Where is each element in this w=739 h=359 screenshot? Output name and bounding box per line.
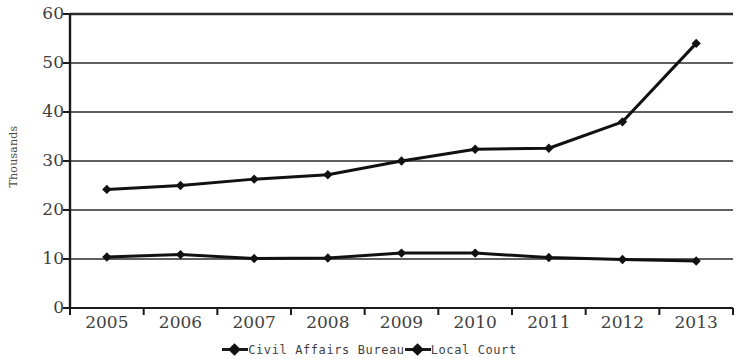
diamond-marker-icon — [222, 343, 248, 355]
data-series — [102, 39, 701, 194]
data-point-marker — [397, 156, 406, 165]
legend-item-local-court: Local Court — [405, 341, 517, 357]
data-point-marker — [397, 248, 406, 257]
data-point-marker — [250, 254, 259, 263]
legend-label: Local Court — [431, 342, 517, 356]
x-tick-label: 2008 — [288, 314, 368, 331]
x-tick-label: 2006 — [141, 314, 221, 331]
x-tick-label: 2013 — [656, 314, 736, 331]
data-point-marker — [471, 248, 480, 257]
data-point-marker — [250, 174, 259, 183]
chart-legend: Civil Affairs Bureau Local Court — [0, 340, 739, 356]
x-tick-label: 2010 — [435, 314, 515, 331]
legend-label: Civil Affairs Bureau — [248, 342, 405, 356]
data-point-marker — [176, 250, 185, 259]
data-point-marker — [102, 185, 111, 194]
line-chart: Thousands 0102030405060 2005200620072008… — [0, 0, 739, 359]
data-point-marker — [471, 145, 480, 154]
data-point-marker — [544, 253, 553, 262]
data-point-marker — [544, 144, 553, 153]
data-point-marker — [618, 255, 627, 264]
data-point-marker — [323, 253, 332, 262]
data-series-layer — [102, 39, 701, 266]
x-tick-label: 2005 — [67, 314, 147, 331]
legend-item-civil-affairs-bureau: Civil Affairs Bureau — [222, 341, 405, 357]
plot-area — [0, 0, 739, 359]
data-point-marker — [102, 252, 111, 261]
diamond-marker-icon — [405, 343, 431, 355]
series-line — [107, 43, 696, 189]
x-tick-label: 2012 — [583, 314, 663, 331]
x-tick-label: 2007 — [214, 314, 294, 331]
data-series — [102, 248, 701, 265]
data-point-marker — [176, 181, 185, 190]
x-tick-label: 2009 — [362, 314, 442, 331]
gridlines — [70, 14, 733, 259]
data-point-marker — [692, 256, 701, 265]
x-tick-label: 2011 — [509, 314, 589, 331]
data-point-marker — [323, 170, 332, 179]
